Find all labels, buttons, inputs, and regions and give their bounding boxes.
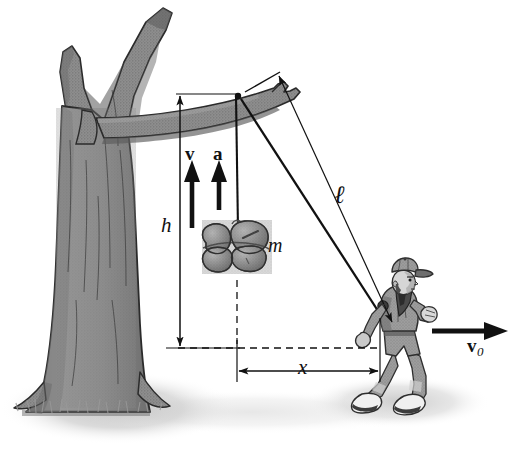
tree [14, 8, 300, 416]
physics-figure: h m x ℓ v a v0 [0, 0, 521, 459]
initial-velocity-label: v0 [467, 336, 484, 358]
initial-velocity-symbol: v [467, 335, 477, 356]
figure-canvas [0, 0, 521, 459]
a-arrow [211, 160, 227, 210]
rope-length-label: ℓ [334, 182, 344, 207]
acceleration-vector-label: a [213, 144, 223, 163]
rope [233, 93, 380, 314]
velocity-vector-label: v [185, 144, 195, 163]
initial-velocity-subscript: 0 [477, 344, 484, 359]
reference-dashed-lines [178, 280, 380, 348]
hanging-mass-bundle [202, 220, 272, 274]
v-arrow [184, 160, 200, 228]
x-dimension [237, 318, 380, 382]
height-label: h [161, 215, 172, 236]
distance-label: x [298, 357, 307, 378]
mass-label: m [268, 235, 282, 255]
